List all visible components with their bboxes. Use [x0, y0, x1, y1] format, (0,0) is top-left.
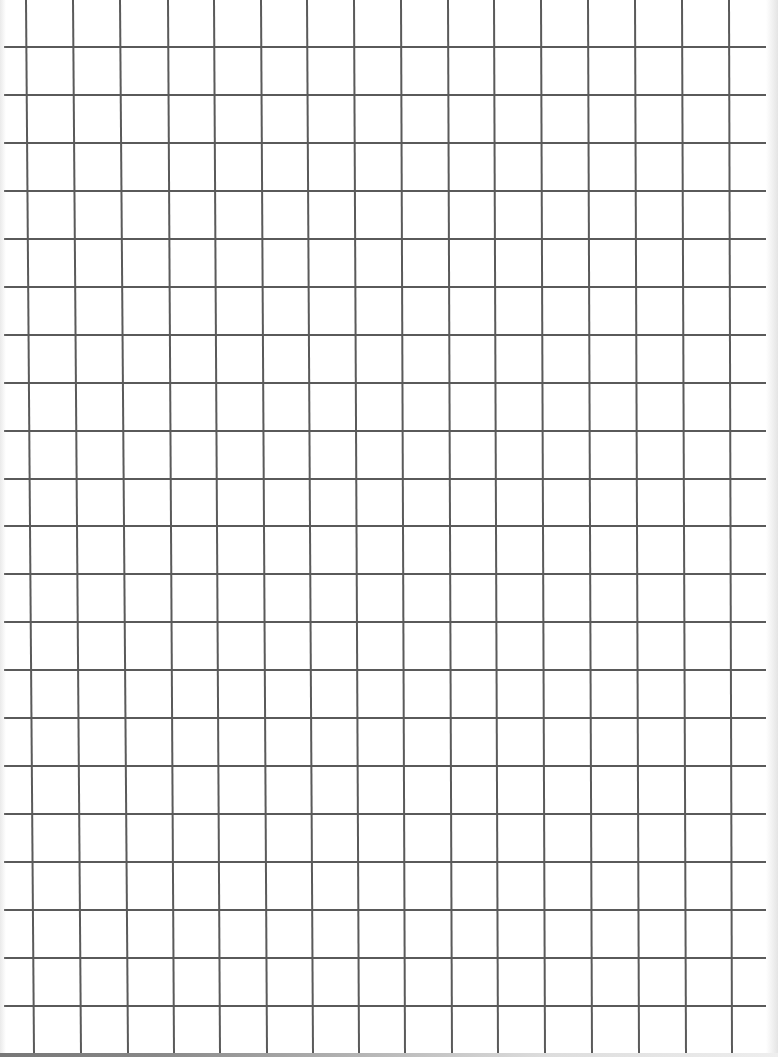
grid-horizontal-line	[4, 861, 766, 863]
paper-bottom-edge	[0, 1053, 778, 1057]
grid-horizontal-line	[4, 334, 766, 336]
grid-horizontal-line	[4, 669, 766, 671]
grid-horizontal-line	[4, 478, 766, 480]
grid-horizontal-line	[4, 813, 766, 815]
graph-paper-sheet	[0, 0, 778, 1057]
grid-horizontal-line	[4, 765, 766, 767]
grid-horizontal-line	[4, 46, 766, 48]
grid-horizontal-line	[4, 717, 766, 719]
grid-horizontal-line	[4, 238, 766, 240]
grid-horizontal-line	[4, 909, 766, 911]
grid-horizontal-line	[4, 621, 766, 623]
grid-horizontal-line	[4, 286, 766, 288]
grid-horizontal-line	[4, 525, 766, 527]
grid-horizontal-line	[4, 382, 766, 384]
grid-horizontal-line	[4, 1005, 766, 1007]
grid-horizontal-line	[4, 957, 766, 959]
grid-horizontal-line	[4, 430, 766, 432]
paper-left-shadow	[0, 0, 6, 1057]
grid-horizontal-line	[4, 190, 766, 192]
grid-horizontal-line	[4, 94, 766, 96]
grid-horizontal-line	[4, 573, 766, 575]
paper-right-shadow	[766, 0, 778, 1057]
grid-horizontal-line	[4, 142, 766, 144]
